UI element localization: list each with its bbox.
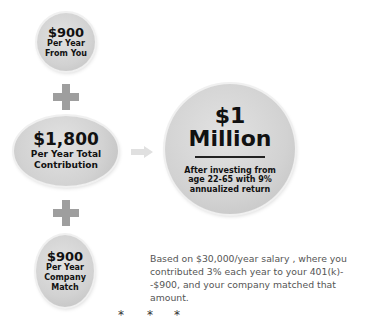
company-label-3: Match [51,283,79,293]
company-match-circle: $900 Per Year Company Match [36,235,94,307]
result-amount: $1 [215,104,246,127]
separator-star: * [174,308,180,322]
result-unit: Million [189,127,272,150]
result-circle: $1 Million After investing from age 22-6… [165,84,295,214]
arrow-right-icon [131,146,153,158]
total-amount: $1,800 [33,131,99,149]
you-contribution-circle: $900 Per Year From You [37,13,95,71]
company-amount: $900 [47,250,83,264]
result-desc-3: annualized return [190,185,271,195]
divider [195,156,265,158]
company-label-2: Company [44,273,86,283]
separator-star: * [147,308,153,322]
explanation-note: Based on $30,000/year salary , where you… [150,252,365,304]
plus-icon [53,84,79,110]
total-contribution-circle: $1,800 Per Year Total Contribution [14,116,118,186]
result-desc-1: After investing from [184,166,276,176]
company-label-1: Per Year [46,263,84,273]
result-desc-2: age 22-65 with 9% [188,175,272,185]
you-amount: $900 [48,26,84,40]
total-label-2: Contribution [34,160,98,171]
you-label-1: Per Year [47,39,85,49]
total-label-1: Per Year Total [31,149,101,160]
plus-icon [53,200,79,226]
you-label-2: From You [45,49,87,59]
separator-star: * [118,308,124,322]
